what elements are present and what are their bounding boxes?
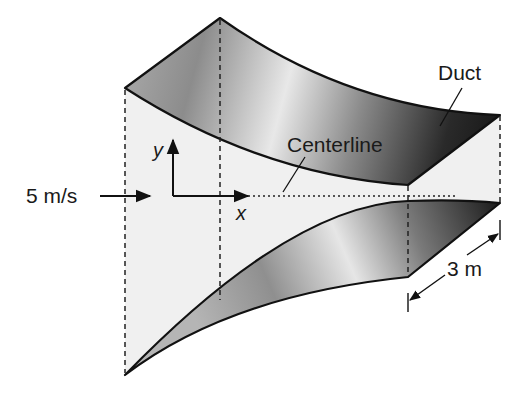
y-axis-label: y [151,139,164,161]
centerline-label: Centerline [287,133,383,156]
duct-label: Duct [438,61,481,84]
x-axis-label: x [235,202,247,224]
inlet-velocity-label: 5 m/s [26,184,77,207]
depth-label: 3 m [447,257,482,280]
duct-diagram: y x 5 m/s Centerline Duct 3 m [0,0,527,396]
